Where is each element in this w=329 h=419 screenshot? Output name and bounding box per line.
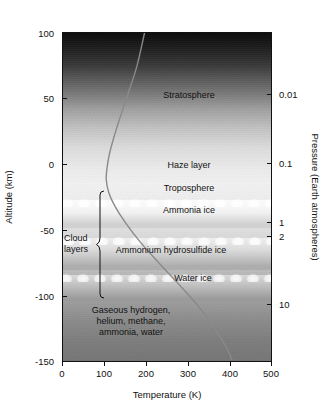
cloud-layers-bracket (96, 190, 106, 299)
cloud-layers-line-2: layers (64, 244, 88, 255)
x-value-400: 400 (222, 368, 238, 379)
x-tick-200 (146, 362, 147, 366)
y-left-value-minus150: -150 (18, 356, 54, 367)
x-value-300: 300 (180, 368, 196, 379)
y-right-tick-0.01 (267, 94, 272, 95)
x-tick-500 (271, 362, 272, 366)
x-tick-300 (188, 362, 189, 366)
y-right-tick-0.1 (267, 163, 272, 164)
y-right-tick-2 (267, 236, 272, 237)
y-right-value-0.1: 0.1 (279, 158, 292, 169)
atmosphere-profile-figure: Stratosphere Haze layer Troposphere Ammo… (0, 0, 329, 419)
label-ammonia-ice: Ammonia ice (163, 205, 215, 216)
y-right-value-0.01: 0.01 (279, 89, 298, 100)
label-ammonium-hydrosulfide-ice: Ammonium hydrosulfide ice (116, 245, 227, 256)
plot-area: Stratosphere Haze layer Troposphere Ammo… (62, 32, 272, 362)
y-axis-left-title: Altitude (km) (3, 170, 14, 223)
y-left-value-100: 100 (26, 28, 54, 39)
y-right-value-2: 2 (279, 231, 284, 242)
x-axis-title: Temperature (K) (133, 389, 202, 400)
y-right-tick-10 (267, 304, 272, 305)
deep-atmosphere-line-1: Gaseous hydrogen, (71, 305, 191, 316)
deep-atmosphere-line-3: ammonia, water (71, 327, 191, 338)
deep-atmosphere-line-2: helium, methane, (71, 316, 191, 327)
y-axis-right-title: Pressure (Earth atmospheres) (310, 133, 321, 260)
x-value-0: 0 (59, 368, 64, 379)
y-left-tick-minus50 (62, 230, 67, 231)
y-left-value-50: 50 (26, 93, 54, 104)
y-left-tick-0 (62, 164, 67, 165)
label-deep-atmosphere-composition: Gaseous hydrogen, helium, methane, ammon… (71, 305, 191, 338)
cloud-layers-line-1: Cloud (64, 233, 88, 244)
y-left-tick-minus100 (62, 296, 67, 297)
x-value-200: 200 (138, 368, 154, 379)
y-left-value-minus50: -50 (22, 225, 54, 236)
y-right-value-1: 1 (279, 217, 284, 228)
x-tick-100 (104, 362, 105, 366)
y-right-value-10: 10 (279, 299, 290, 310)
label-water-ice: Water ice (174, 273, 212, 284)
y-left-tick-50 (62, 98, 67, 99)
x-tick-0 (62, 362, 63, 366)
label-cloud-layers: Cloud layers (64, 233, 88, 255)
x-tick-400 (230, 362, 231, 366)
x-value-500: 500 (263, 368, 279, 379)
label-troposphere: Troposphere (164, 183, 215, 194)
label-stratosphere: Stratosphere (163, 90, 215, 101)
label-haze-layer: Haze layer (167, 160, 210, 171)
y-right-tick-1 (267, 222, 272, 223)
y-left-tick-100 (62, 32, 67, 33)
y-left-value-0: 0 (26, 159, 54, 170)
x-value-100: 100 (96, 368, 112, 379)
y-left-value-minus100: -100 (18, 291, 54, 302)
